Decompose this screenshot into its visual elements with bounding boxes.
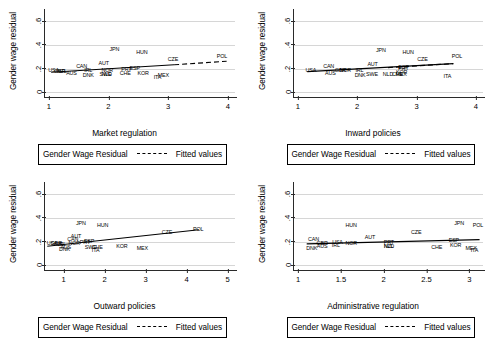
plot-area-bottom-right: Gender wage residual0.2.4.611.522.53CAND… — [249, 173, 497, 293]
legend-fit-label: Fitted values — [424, 323, 470, 332]
legend-fit-label: Fitted values — [176, 323, 222, 332]
x-tick-label-3: 4 — [226, 102, 230, 111]
data-point-SWE: SWE — [366, 72, 378, 77]
legend-series-label: Gender Wage Residual — [291, 150, 376, 159]
y-tick-text: .4 — [33, 215, 42, 221]
x-tick-label-3: 4 — [185, 275, 189, 284]
y-tick-text: .4 — [282, 42, 291, 48]
data-point-ITA: ITA — [92, 248, 100, 253]
data-point-POL: POL — [217, 54, 227, 59]
data-point-ITA: ITA — [444, 74, 452, 79]
y-tick-label-2: .4 — [284, 213, 290, 222]
chart-legend: Gender Wage ResidualFitted values — [38, 144, 227, 165]
x-tick-label-1: 2 — [355, 102, 359, 111]
plot-canvas: 0.2.4.612345USAGBRNZLIRLDNKAUSCANNORAUTJ… — [44, 185, 235, 271]
data-point-POL: POL — [193, 227, 203, 232]
x-tick-label-3: 4 — [474, 102, 478, 111]
y-tick-text: .4 — [33, 42, 42, 48]
data-point-CHE: CHE — [431, 245, 442, 250]
y-tick-text: .2 — [282, 238, 291, 244]
data-point-CAN: CAN — [323, 64, 334, 69]
data-point-AUS: AUS — [66, 72, 77, 77]
x-axis-label: Outward policies — [0, 301, 249, 311]
chart-legend: Gender Wage ResidualFitted values — [287, 317, 475, 338]
data-point-USA: USA — [305, 68, 316, 73]
plot-canvas: 0.2.4.61234USAGBRNZLAUSCANIRLDNKAUTNORSW… — [44, 12, 235, 98]
data-point-KOR: KOR — [116, 244, 127, 249]
data-point-DNK: DNK — [355, 73, 366, 78]
y-tick-text: .6 — [33, 191, 42, 197]
data-point-CHE: CHE — [120, 72, 131, 77]
x-tick-label-0: 1 — [296, 275, 300, 284]
legend-dashed-line-icon — [385, 153, 415, 154]
y-tick-label-3: .6 — [35, 190, 41, 199]
legend-fit-label: Fitted values — [424, 150, 470, 159]
fitted-line-group — [44, 185, 235, 271]
data-point-CZE: CZE — [417, 57, 427, 62]
y-tick-label-2: .4 — [35, 40, 41, 49]
data-point-JPN: JPN — [110, 48, 120, 53]
y-tick-label-2: .4 — [284, 40, 290, 49]
chart-legend: Gender Wage ResidualFitted values — [38, 317, 227, 338]
chart-panel-bottom-left: Gender wage residual0.2.4.612345USAGBRNZ… — [0, 173, 249, 346]
y-tick-label-1: .2 — [35, 64, 41, 73]
y-tick-text: .6 — [282, 191, 291, 197]
x-axis-label: Administrative regulation — [249, 301, 497, 311]
data-point-KOR: KOR — [396, 71, 407, 76]
legend-series-label: Gender Wage Residual — [43, 150, 128, 159]
y-tick-label-0: 0 — [37, 261, 41, 270]
y-axis-label: Gender wage residual — [7, 165, 21, 283]
y-tick-label-1: .2 — [35, 237, 41, 246]
data-point-AUT: AUT — [365, 236, 375, 241]
data-point-DNK: DNK — [83, 74, 94, 79]
y-tick-text: .6 — [282, 18, 291, 24]
fitted-line-group — [293, 185, 483, 271]
x-axis-label: Inward policies — [249, 128, 497, 138]
data-point-HUN: HUN — [136, 51, 147, 56]
data-point-HUN: HUN — [97, 224, 108, 229]
chart-panel-top-left: Gender wage residual0.2.4.61234USAGBRNZL… — [0, 0, 249, 173]
data-point-NOR: NOR — [339, 68, 351, 73]
y-tick-label-0: 0 — [286, 261, 290, 270]
data-point-AUS: AUS — [317, 245, 328, 250]
y-tick-label-3: .6 — [35, 17, 41, 26]
x-tick-label-2: 2 — [382, 275, 386, 284]
legend-dashed-line-icon — [385, 326, 415, 327]
data-point-NOR: NOR — [345, 241, 357, 246]
data-point-KOR: KOR — [450, 244, 461, 249]
y-tick-text: .4 — [282, 215, 291, 221]
legend-dashed-line-icon — [137, 326, 167, 327]
legend-series-label: Gender Wage Residual — [43, 323, 128, 332]
y-tick-label-0: 0 — [286, 88, 290, 97]
plot-area-top-left: Gender wage residual0.2.4.61234USAGBRNZL… — [0, 0, 249, 120]
data-point-HUN: HUN — [403, 51, 414, 56]
x-tick-label-0: 1 — [47, 102, 51, 111]
y-tick-label-2: .4 — [35, 213, 41, 222]
data-point-MEX: MEX — [158, 74, 169, 79]
x-tick-label-2: 3 — [144, 275, 148, 284]
chart-legend: Gender Wage ResidualFitted values — [287, 144, 475, 165]
x-tick-label-0: 1 — [62, 275, 66, 284]
x-tick-label-2: 3 — [414, 102, 418, 111]
data-point-HUN: HUN — [346, 224, 357, 229]
data-point-KOR: KOR — [137, 71, 148, 76]
y-tick-text: .6 — [33, 18, 42, 24]
plot-area-top-right: Gender wage residual0.2.4.61234USACANAUS… — [249, 0, 497, 120]
panel-grid: Gender wage residual0.2.4.61234USAGBRNZL… — [0, 0, 497, 346]
plot-canvas: 0.2.4.61234USACANAUSGBRNORIRLDNKAUTSWEJP… — [293, 12, 483, 98]
x-tick-label-4: 5 — [225, 275, 229, 284]
x-tick-label-0: 1 — [296, 102, 300, 111]
data-point-ITA: ITA — [471, 248, 479, 253]
data-point-POL: POL — [473, 224, 483, 229]
y-tick-text: .2 — [33, 65, 42, 71]
data-point-JPN: JPN — [76, 221, 86, 226]
fitted-line-dashed — [174, 61, 227, 65]
data-point-IRL: IRL — [332, 243, 340, 248]
y-tick-label-1: .2 — [284, 237, 290, 246]
data-point-JPN: JPN — [454, 221, 464, 226]
data-point-MEX: MEX — [137, 246, 148, 251]
x-tick-label-3: 2.5 — [421, 275, 432, 284]
data-point-NZL: NZL — [384, 245, 394, 250]
legend-fit-label: Fitted values — [176, 150, 222, 159]
data-point-NLD: NLD — [102, 72, 112, 77]
